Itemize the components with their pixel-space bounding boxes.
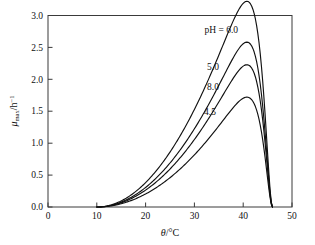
x-tick-label: 10 [92, 211, 102, 221]
curve-5.0 [97, 42, 273, 207]
curve-group [97, 1, 273, 207]
curve-8.0 [97, 65, 273, 207]
series-label: 5.0 [207, 62, 219, 72]
y-axis-subscript: max [13, 110, 20, 122]
y-tick-labels: 0.0 0.5 1.0 1.5 2.0 2.5 3.0 [31, 11, 43, 213]
x-tick-label: 20 [141, 211, 151, 221]
y-tick-label: 1.0 [31, 138, 43, 148]
x-tick-labels: 0 10 20 30 40 50 [46, 211, 297, 221]
chart-figure: 0 10 20 30 40 50 0.0 0.5 1.0 1.5 2.0 2.5… [0, 0, 315, 245]
series-label: 8.0 [207, 82, 219, 92]
y-tick-label: 2.5 [31, 43, 43, 53]
y-axis-divider: /h [8, 102, 19, 110]
y-tick-label: 0.5 [31, 170, 43, 180]
x-tick-label: 0 [46, 211, 51, 221]
chart-svg: 0 10 20 30 40 50 0.0 0.5 1.0 1.5 2.0 2.5… [0, 0, 315, 245]
x-tick-label: 40 [238, 211, 248, 221]
x-tick-label: 30 [190, 211, 200, 221]
y-axis-superscript: −1 [8, 95, 15, 102]
x-axis-title: θ/°C [161, 227, 180, 238]
y-tick-label: 3.0 [31, 11, 43, 21]
y-tick-label: 1.5 [31, 106, 43, 116]
y-tick-label: 0.0 [31, 202, 43, 212]
curve-ph-6.0 [97, 1, 273, 207]
series-label: pH = 6.0 [204, 25, 238, 35]
x-axis-divider: /°C [166, 227, 180, 238]
svg-text:μmax/h−1: μmax/h−1 [8, 95, 21, 127]
x-tick-marks [48, 203, 292, 208]
series-label: 4.5 [204, 107, 216, 117]
x-tick-label: 50 [287, 211, 297, 221]
y-tick-label: 2.0 [31, 75, 43, 85]
y-tick-marks [48, 16, 53, 208]
y-axis-title: μmax/h−1 [8, 95, 21, 127]
